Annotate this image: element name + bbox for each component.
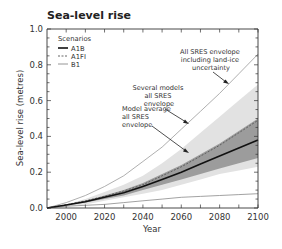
- y-tick-label: 1.0: [29, 24, 43, 34]
- x-tick-label: 2000: [55, 212, 77, 222]
- annotation-arrow-outer: [213, 72, 226, 82]
- y-tick-label: 0.8: [29, 60, 43, 70]
- legend-label-a1b: A1B: [71, 45, 85, 53]
- x-tick-label: 2060: [170, 212, 192, 222]
- x-tick-label: 2020: [94, 212, 116, 222]
- annotation-model-average-envelope: Model average all SRES envelope: [122, 105, 173, 129]
- plot-area: [47, 54, 258, 208]
- y-tick-label: 0.2: [29, 167, 43, 177]
- sea-level-rise-chart: Sea-level rise 0.00.20.40.60.81.02000202…: [0, 0, 282, 249]
- b1-line: [47, 194, 258, 208]
- legend-label-b1: B1: [71, 61, 80, 69]
- y-tick-label: 0.6: [29, 96, 43, 106]
- chart-title: Sea-level rise: [47, 9, 131, 22]
- x-tick-label: 2100: [247, 212, 269, 222]
- annotation-outer-envelope: All SRES envelope including land-ice unc…: [180, 48, 242, 72]
- x-tick-label: 2080: [209, 212, 231, 222]
- x-axis-label: Year: [142, 224, 162, 234]
- legend-label-a1fi: A1FI: [71, 53, 86, 61]
- arrowhead-icon: [183, 120, 189, 125]
- legend-title: Scenarios: [58, 35, 92, 43]
- y-tick-label: 0.0: [29, 203, 43, 213]
- y-tick-label: 0.4: [29, 131, 43, 141]
- y-axis-label: Sea-level rise (metres): [15, 70, 25, 166]
- x-tick-label: 2040: [132, 212, 154, 222]
- legend: Scenarios A1B A1FI B1: [58, 35, 92, 69]
